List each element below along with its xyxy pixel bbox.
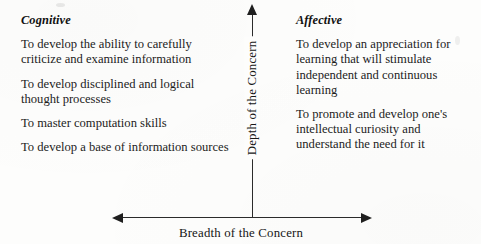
scan-artifact (56, 3, 65, 7)
list-item: To develop an appreciation for learning … (296, 37, 474, 98)
vertical-axis-label: Depth of the Concern (245, 37, 260, 160)
horizontal-axis-line (118, 217, 364, 218)
list-item: To promote and develop one's intellectua… (296, 107, 474, 153)
horizontal-axis-arrowhead-left-icon (112, 213, 123, 223)
vertical-axis-arrowhead-up-icon (247, 4, 257, 15)
quadrant-cognitive-heading: Cognitive (21, 13, 233, 28)
concern-diagram: Cognitive To develop the ability to care… (0, 0, 481, 244)
quadrant-affective-heading: Affective (296, 13, 474, 28)
list-item: To master computation skills (21, 116, 233, 131)
quadrant-affective: Affective To develop an appreciation for… (296, 13, 474, 153)
list-item: To develop a base of information sources (21, 140, 233, 155)
horizontal-axis-label: Breadth of the Concern (179, 226, 303, 241)
list-item: To develop disciplined and logical thoug… (21, 77, 233, 107)
quadrant-cognitive: Cognitive To develop the ability to care… (21, 13, 233, 155)
horizontal-axis-arrowhead-right-icon (361, 213, 372, 223)
list-item: To develop the ability to carefully crit… (21, 37, 233, 67)
